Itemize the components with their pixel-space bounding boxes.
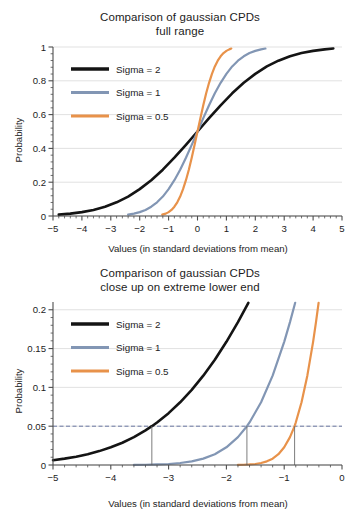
y-tick-label: 0.8 [33,75,46,86]
curve-sigma-2 [59,49,334,215]
y-tick-label: 0.15 [27,343,46,354]
x-tick-label: −5 [48,472,59,483]
x-axis-title-full-range: Values (in standard deviations from mean… [108,243,288,254]
curve-sigma-0-5 [238,303,319,465]
x-tick-label: 0 [195,223,200,234]
y-tick-label: 0 [41,460,46,471]
series-lines-lower-tail [53,303,319,465]
gridlines-lower-tail [53,310,342,465]
legend-label: Sigma = 0.5 [116,111,169,122]
x-axis-title-lower-tail: Values (in standard deviations from mean… [108,498,288,509]
x-tick-label: −2 [134,223,145,234]
plot-area-full-range: −5−4−3−2−101234500.20.40.60.81 Sigma = 2… [0,0,360,258]
x-tick-label: −1 [163,223,174,234]
plot-area-lower-tail: −5−4−3−2−1000.050.10.150.2 Sigma = 2Sigm… [0,258,360,513]
y-tick-label: 0.2 [33,177,46,188]
y-tick-label: 0 [41,211,46,222]
chart-panel-full-range: Comparison of gaussian CPDs full range −… [0,0,360,258]
x-tick-label: 2 [253,223,258,234]
legend-label: Sigma = 2 [116,64,160,75]
legend-label: Sigma = 1 [116,87,160,98]
legend-label: Sigma = 1 [116,342,160,353]
x-tick-label: 3 [282,223,287,234]
x-tick-label: 1 [224,223,229,234]
x-tick-label: −3 [163,472,174,483]
x-tick-label: −4 [76,223,88,234]
figure-container: Comparison of gaussian CPDs full range −… [0,0,360,513]
y-axis-title-full-range: Probability [13,117,24,162]
curve-sigma-0-5 [162,49,231,215]
y-tick-label: 0.1 [33,382,46,393]
x-tick-label: −2 [221,472,232,483]
x-tick-label: −4 [105,472,117,483]
legend-label: Sigma = 2 [116,319,160,330]
y-tick-label: 0.05 [27,421,46,432]
legend-label: Sigma = 0.5 [116,366,169,377]
x-tick-label: −5 [48,223,59,234]
x-tick-label: 4 [310,223,316,234]
x-tick-label: −3 [105,223,116,234]
y-tick-label: 0.6 [33,109,46,120]
x-tick-label: 0 [339,472,344,483]
y-tick-label: 0.2 [33,304,46,315]
x-tick-label: 5 [339,223,344,234]
y-axis-title-lower-tail: Probability [13,368,24,413]
series-lines-full-range [59,49,334,215]
x-tick-label: −1 [279,472,290,483]
chart-panel-lower-tail: Comparison of gaussian CPDs close up on … [0,258,360,513]
legend-full-range: Sigma = 2Sigma = 1Sigma = 0.5 [71,64,169,122]
legend-lower-tail: Sigma = 2Sigma = 1Sigma = 0.5 [71,319,169,377]
y-tick-label: 1 [41,42,46,53]
y-tick-label: 0.4 [33,143,47,154]
